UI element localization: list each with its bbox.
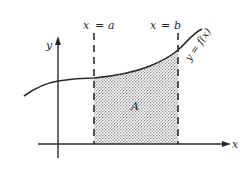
x-axis-label: x xyxy=(232,138,239,151)
label-x-equals-b: x = b xyxy=(150,19,181,32)
x-axis-arrowhead-icon xyxy=(222,141,231,147)
svg-text:b: b xyxy=(174,19,181,32)
shaded-area-region xyxy=(94,50,178,144)
svg-text:=: = xyxy=(161,19,170,32)
label-x-equals-a: x = a xyxy=(83,19,115,32)
svg-text:x: x xyxy=(150,19,157,32)
svg-text:a: a xyxy=(108,19,115,32)
svg-text:x: x xyxy=(83,19,90,32)
svg-text:=: = xyxy=(95,19,104,32)
y-axis-label: y xyxy=(45,39,53,52)
y-axis-arrowhead-icon xyxy=(55,36,61,45)
area-label: A xyxy=(130,100,139,113)
area-under-curve-diagram: y x x = a x = b y = f(x) A xyxy=(0,0,240,169)
